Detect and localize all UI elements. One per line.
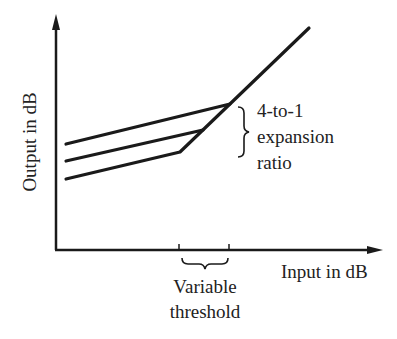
x-axis-label: Input in dB (281, 261, 368, 282)
x-axis-arrow-icon (367, 246, 383, 254)
y-axis-label: Output in dB (19, 92, 40, 191)
ratio-brace-icon (238, 107, 249, 157)
threshold-label-line2: threshold (170, 301, 241, 322)
threshold-label-line1: Variable (173, 276, 236, 297)
curve-high-threshold (66, 104, 230, 144)
y-axis-arrow-icon (52, 14, 60, 30)
ratio-label-line3: ratio (257, 152, 292, 173)
ratio-label-line1: 4-to-1 (257, 100, 303, 121)
curve-mid-threshold (66, 130, 203, 161)
expander-diagram: Output in dB Input in dB 4-to-1 expansio… (0, 0, 397, 339)
ratio-label-line2: expansion (257, 126, 335, 147)
threshold-brace-icon (182, 258, 228, 269)
